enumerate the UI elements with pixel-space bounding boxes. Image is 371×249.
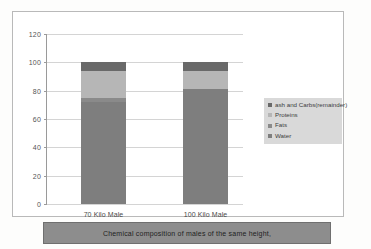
legend-label: Water xyxy=(275,133,291,139)
y-axis-tick xyxy=(44,119,47,120)
legend-item[interactable]: Water xyxy=(268,133,339,139)
chart-card: 020406080100120 70 Kilo Male100 Kilo Mal… xyxy=(12,11,344,217)
legend-label: Proteins xyxy=(275,112,298,118)
bar-2[interactable]: 100 Kilo Male xyxy=(183,62,228,204)
x-axis-tick-label: 70 Kilo Male xyxy=(81,211,126,218)
chart-legend: ash and Carbs(remainder)ProteinsFatsWate… xyxy=(264,98,342,144)
y-axis-tick-label: 80 xyxy=(33,87,41,94)
gridline xyxy=(46,204,243,205)
y-axis-tick-label: 120 xyxy=(29,31,41,38)
y-axis-tick-label: 60 xyxy=(33,116,41,123)
bar-1[interactable]: 70 Kilo Male xyxy=(81,62,126,204)
y-axis-tick xyxy=(44,34,47,35)
x-axis-tick-label: 100 Kilo Male xyxy=(183,211,228,218)
scanned-page: 020406080100120 70 Kilo Male100 Kilo Mal… xyxy=(0,0,371,249)
y-axis-tick-label: 0 xyxy=(37,201,41,208)
legend-swatch-icon xyxy=(268,113,272,117)
legend-item[interactable]: ash and Carbs(remainder) xyxy=(268,102,339,108)
y-axis-tick xyxy=(44,62,47,63)
legend-label: Fats xyxy=(275,122,287,128)
legend-item[interactable]: Fats xyxy=(268,122,339,128)
plot-area: 020406080100120 70 Kilo Male100 Kilo Mal… xyxy=(46,34,243,204)
y-axis-tick xyxy=(44,147,47,148)
bar-segment-proteins[interactable] xyxy=(183,71,228,89)
bar-segment-water[interactable] xyxy=(81,102,126,204)
legend-swatch-icon xyxy=(268,103,272,107)
legend-swatch-icon xyxy=(268,134,272,138)
bar-segment-water[interactable] xyxy=(183,89,228,204)
bar-segment-proteins[interactable] xyxy=(81,71,126,98)
figure-caption: Chemical composition of males of the sam… xyxy=(43,222,331,244)
legend-label: ash and Carbs(remainder) xyxy=(275,102,347,108)
y-axis-tick-label: 100 xyxy=(29,59,41,66)
bar-segment-ash[interactable] xyxy=(183,62,228,71)
bar-segment-ash[interactable] xyxy=(81,62,126,71)
y-axis-tick-label: 40 xyxy=(33,144,41,151)
y-axis-tick xyxy=(44,91,47,92)
y-axis-tick-label: 20 xyxy=(33,172,41,179)
legend-swatch-icon xyxy=(268,124,272,128)
y-axis-tick xyxy=(44,204,47,205)
y-axis-tick xyxy=(44,176,47,177)
gridline xyxy=(46,34,243,35)
legend-item[interactable]: Proteins xyxy=(268,112,339,118)
